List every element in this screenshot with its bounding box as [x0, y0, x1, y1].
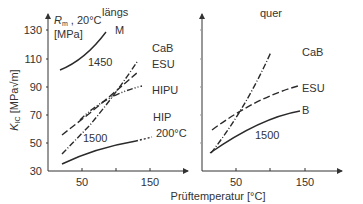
y-tick-110: 110 — [24, 53, 42, 65]
series-HIPU — [80, 86, 142, 120]
y-tick-30: 30 — [30, 165, 42, 177]
right-panel-title: quer — [260, 7, 282, 19]
right-x-tick-150: 150 — [296, 176, 314, 188]
left-y-tick-labels: 130 110 90 70 50 30 — [24, 24, 42, 177]
series-ESU-right — [212, 86, 298, 130]
right-x-tick-50: 50 — [230, 176, 242, 188]
label-ESU-left: ESU — [152, 58, 175, 70]
annot-1450: 1450 — [88, 56, 112, 68]
x-axis-label: Prüftemperatur [°C] — [171, 190, 266, 202]
series-HIP — [62, 141, 136, 164]
series-HIP-200C — [136, 137, 152, 141]
y-tick-70: 70 — [30, 109, 42, 121]
annot-1500-right: 1500 — [255, 129, 279, 141]
label-CaB-left: CaB — [152, 42, 173, 54]
left-x-tick-labels: 50 150 — [76, 176, 159, 188]
y-tick-50: 50 — [30, 137, 42, 149]
x-tick-150: 150 — [141, 176, 159, 188]
left-series — [60, 32, 152, 164]
annot-1500-left: 1500 — [83, 132, 107, 144]
label-HIP: HIP — [153, 111, 171, 123]
chart-figure: 130 110 90 70 50 30 50 150 KIC [MPa√m] R… — [0, 0, 363, 204]
label-HIPU: HIPU — [152, 84, 178, 96]
y-tick-130: 130 — [24, 24, 42, 36]
x-tick-50: 50 — [76, 176, 88, 188]
y-tick-90: 90 — [30, 81, 42, 93]
rm-unit: [MPa] — [54, 28, 83, 40]
right-series-labels: CaB ESU B 1500 — [255, 46, 325, 141]
rm-label: Rm , 20°C — [54, 14, 102, 27]
annot-200C: 200°C — [156, 127, 187, 139]
right-x-tick-labels: 50 150 — [230, 176, 314, 188]
label-M: M — [115, 24, 124, 36]
left-panel-title: längs — [102, 6, 129, 18]
label-B: B — [302, 104, 309, 116]
label-ESU-right: ESU — [302, 82, 325, 94]
label-CaB-right: CaB — [302, 46, 323, 58]
y-axis-label: KIC [MPa√m] — [8, 69, 21, 130]
